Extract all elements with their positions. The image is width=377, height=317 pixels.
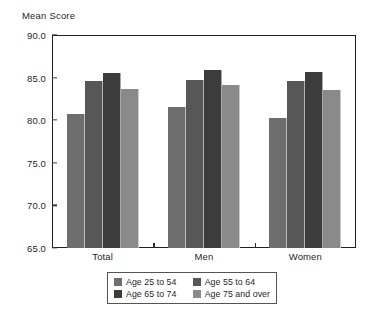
bar xyxy=(186,80,204,248)
bar xyxy=(85,81,103,248)
legend-swatch-age-55-to-64 xyxy=(193,278,201,286)
legend-label-age-55-to-64: Age 55 to 64 xyxy=(205,277,256,287)
legend-swatch-age-75-and-over xyxy=(193,290,201,298)
bar xyxy=(323,90,341,248)
y-tick-label: 85.0 xyxy=(27,72,46,83)
x-group-label-total: Total xyxy=(92,251,113,262)
y-tick-mark xyxy=(52,34,57,35)
x-group-label-men: Men xyxy=(195,251,214,262)
y-tick-mark xyxy=(52,120,57,121)
bar xyxy=(121,89,139,248)
bar xyxy=(204,70,222,248)
plot-area: 65.070.075.080.085.090.0 xyxy=(52,35,356,248)
legend-label-age-25-to-54: Age 25 to 54 xyxy=(126,277,177,287)
bar-chart-figure: Mean Score 65.070.075.080.085.090.0 Tota… xyxy=(0,0,377,317)
y-axis-title: Mean Score xyxy=(22,10,75,21)
x-group-label-women: Women xyxy=(289,251,322,262)
y-tick-mark xyxy=(52,77,57,78)
bar xyxy=(67,114,85,248)
y-tick-label: 70.0 xyxy=(27,200,46,211)
y-tick-mark xyxy=(52,205,57,206)
legend-swatch-age-25-to-54 xyxy=(114,278,122,286)
y-tick-label: 80.0 xyxy=(27,115,46,126)
legend-item-age-75-and-over[interactable]: Age 75 and over xyxy=(193,289,270,299)
bar xyxy=(168,107,186,248)
y-tick-label: 75.0 xyxy=(27,157,46,168)
legend-item-age-55-to-64[interactable]: Age 55 to 64 xyxy=(193,277,270,287)
bar xyxy=(269,118,287,248)
legend-swatch-age-65-to-74 xyxy=(114,290,122,298)
legend-item-age-25-to-54[interactable]: Age 25 to 54 xyxy=(114,277,189,287)
x-axis-separator xyxy=(153,243,154,248)
legend-label-age-65-to-74: Age 65 to 74 xyxy=(126,289,177,299)
y-tick-mark xyxy=(52,247,57,248)
legend-item-age-65-to-74[interactable]: Age 65 to 74 xyxy=(114,289,189,299)
y-tick-label: 65.0 xyxy=(27,243,46,254)
y-tick-label: 90.0 xyxy=(27,30,46,41)
y-tick-mark xyxy=(52,162,57,163)
legend-label-age-75-and-over: Age 75 and over xyxy=(205,289,270,299)
bar xyxy=(222,85,240,248)
x-axis-separator xyxy=(255,243,256,248)
bar xyxy=(103,73,121,248)
bar xyxy=(287,81,305,248)
bar xyxy=(305,72,323,248)
chart-legend: Age 25 to 54 Age 55 to 64 Age 65 to 74 A… xyxy=(107,272,277,304)
